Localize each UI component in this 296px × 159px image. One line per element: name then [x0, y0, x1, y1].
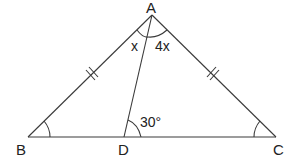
angle-label-30: 30°: [140, 114, 161, 130]
angle-arc-dac: [148, 30, 167, 37]
vertex-label-d: D: [118, 141, 129, 158]
angle-label-4x: 4x: [155, 38, 170, 54]
segment-ab: [28, 15, 152, 137]
vertex-label-a: A: [146, 0, 156, 16]
angle-arc-b: [44, 121, 50, 137]
vertex-label-c: C: [273, 141, 284, 158]
angle-arc-bad: [137, 30, 148, 37]
geometry-diagram: A B D C x 4x 30°: [0, 0, 296, 159]
angle-arc-c: [254, 121, 260, 137]
vertex-label-b: B: [16, 141, 26, 158]
tick-marks-ac: [207, 67, 219, 80]
angle-label-x: x: [131, 38, 138, 54]
